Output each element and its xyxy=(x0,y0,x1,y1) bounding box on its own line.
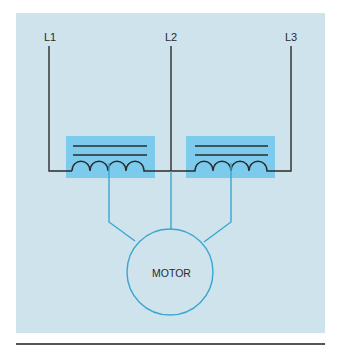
motor-label: MOTOR xyxy=(152,267,191,279)
wiring-diagram: L1 L2 L3 MOTOR xyxy=(0,0,337,349)
coil-box-left xyxy=(66,136,155,178)
label-l3: L3 xyxy=(285,31,297,43)
label-l1: L1 xyxy=(44,31,56,43)
blue-wires xyxy=(109,163,231,315)
label-l2: L2 xyxy=(165,31,177,43)
